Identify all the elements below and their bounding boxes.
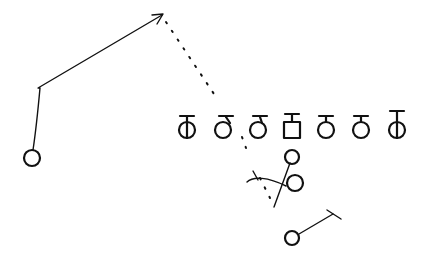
quarterback	[285, 150, 299, 164]
running-back-circle	[285, 231, 299, 245]
ball-path-lower	[260, 178, 270, 198]
ball-path-upper	[166, 22, 218, 100]
running-back	[285, 210, 341, 245]
play-diagram	[0, 0, 427, 265]
left-tackle	[179, 116, 195, 138]
right-tackle	[353, 116, 369, 138]
play-diagram-canvas	[0, 0, 427, 265]
receiver-route	[33, 15, 162, 150]
ball-path-middle	[242, 137, 246, 148]
offensive-line	[179, 111, 405, 138]
backfield	[247, 150, 303, 207]
left-guard	[215, 116, 233, 138]
running-back-route	[299, 214, 333, 234]
right-guard	[318, 116, 334, 138]
block-arc	[247, 178, 286, 186]
left-guard-2	[250, 116, 267, 138]
receiver-circle	[24, 150, 40, 166]
tight-end	[389, 111, 405, 138]
center	[284, 114, 300, 138]
wide-receiver	[24, 14, 163, 166]
arrowhead-icon	[152, 14, 163, 24]
block-tee-icon	[327, 210, 341, 219]
fullback	[287, 175, 303, 191]
